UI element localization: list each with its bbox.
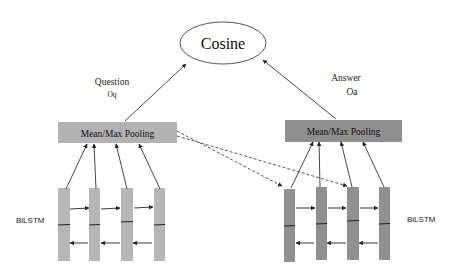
question-bilstm-label: BiLSTM bbox=[16, 216, 45, 225]
question-pooling-box: Mean/Max Pooling bbox=[58, 122, 177, 143]
answer-pooling-box: Mean/Max Pooling bbox=[285, 120, 402, 142]
question-label: Question bbox=[95, 77, 130, 87]
answer-output-label: Oa bbox=[346, 87, 358, 97]
question-lstm-cell-3 bbox=[121, 188, 133, 261]
question-to-cosine-arrow bbox=[125, 64, 186, 121]
answer-to-cosine-arrow bbox=[263, 60, 336, 119]
cosine-node: Cosine bbox=[180, 22, 266, 64]
answer-bilstm-label: BiLSTM bbox=[407, 215, 436, 224]
question-bilstm bbox=[58, 144, 165, 261]
answer-pooling-label: Mean/Max Pooling bbox=[307, 127, 381, 137]
qa-lstm-diagram: Cosine Question Oq Answer Oa Mean/Max Po… bbox=[0, 0, 452, 274]
cosine-label: Cosine bbox=[201, 35, 245, 52]
question-pooling-label: Mean/Max Pooling bbox=[81, 129, 155, 139]
answer-label: Answer bbox=[331, 73, 361, 83]
dashed-arrow-to-answer-cell-3 bbox=[177, 136, 347, 186]
dashed-arrow-to-answer-cell-1 bbox=[177, 131, 282, 186]
answer-bilstm bbox=[284, 142, 390, 262]
answer-lstm-cell-3 bbox=[347, 187, 359, 260]
question-output-label: Oq bbox=[107, 90, 116, 99]
